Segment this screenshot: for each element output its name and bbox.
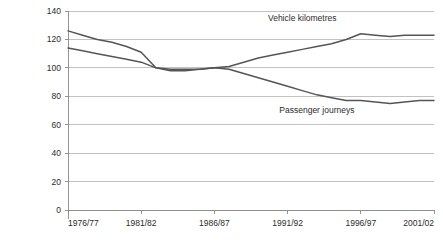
series-line-0: [68, 31, 434, 69]
y-tick-label-60: 60: [52, 120, 62, 130]
axes: [65, 11, 434, 219]
x-tick-label-1981: 1981/82: [126, 218, 157, 228]
line-chart: 140120100806040200 1976/771981/821986/87…: [0, 0, 443, 242]
passenger-journeys-label: Passenger journeys: [279, 105, 354, 115]
gridlines: [68, 11, 434, 210]
x-tick-label-1991: 1991/92: [272, 218, 303, 228]
y-tick-label-120: 120: [47, 34, 61, 44]
chart-canvas: 140120100806040200 1976/771981/821986/87…: [0, 0, 443, 242]
vehicle-kilometres-label: Vehicle kilometres: [268, 13, 337, 23]
y-axis-tick-labels: 140120100806040200: [47, 6, 61, 215]
x-tick-label-1996: 1996/97: [345, 218, 376, 228]
data-series: [68, 31, 434, 103]
x-tick-label-2001: 2001/02: [403, 218, 434, 228]
y-tick-label-100: 100: [47, 63, 61, 73]
y-tick-label-40: 40: [52, 148, 62, 158]
y-tick-label-0: 0: [56, 205, 61, 215]
y-tick-label-80: 80: [52, 91, 62, 101]
y-tick-label-20: 20: [52, 177, 62, 187]
x-axis-tick-labels: 1976/771981/821986/871991/921996/972001/…: [68, 218, 434, 228]
series-line-1: [68, 48, 434, 103]
x-tick-label-1976: 1976/77: [68, 218, 99, 228]
y-tick-label-140: 140: [47, 6, 61, 16]
x-tick-label-1986: 1986/87: [199, 218, 230, 228]
